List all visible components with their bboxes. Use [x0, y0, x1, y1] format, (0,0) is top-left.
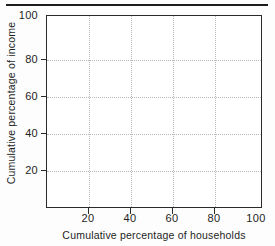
gridline-vertical-80	[215, 16, 216, 207]
gridline-horizontal-60	[47, 97, 261, 98]
xtick-label-100: 100	[236, 213, 275, 224]
ytick-mark-40	[41, 133, 47, 134]
y-axis-title-container: Cumulative percentage of income	[4, 7, 18, 200]
xtick-label-40: 40	[110, 213, 150, 224]
xtick-label-60: 60	[152, 213, 192, 224]
ytick-mark-60	[41, 96, 47, 97]
gridline-horizontal-40	[47, 134, 261, 135]
gridline-horizontal-80	[47, 60, 261, 61]
header-rule	[6, 4, 268, 6]
lorenz-curve-figure: 100 80 60 40 20 20 40 60 80 100 Cumulati…	[0, 0, 275, 246]
gridline-vertical-20	[89, 16, 90, 207]
ytick-mark-80	[41, 59, 47, 60]
gridline-vertical-40	[131, 16, 132, 207]
y-axis-title: Cumulative percentage of income	[5, 22, 17, 185]
x-axis-title: Cumulative percentage of households	[46, 229, 262, 241]
xtick-label-80: 80	[194, 213, 234, 224]
ytick-mark-20	[41, 170, 47, 171]
gridline-horizontal-20	[47, 171, 261, 172]
xtick-label-20: 20	[68, 213, 108, 224]
gridline-vertical-60	[173, 16, 174, 207]
plot-area	[46, 15, 262, 208]
